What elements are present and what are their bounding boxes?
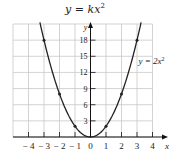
y-tick-label: 18: [80, 36, 88, 45]
x-tick-label: 3: [135, 141, 140, 151]
y-tick-label: 15: [80, 52, 88, 61]
parabola-chart: − 4− 3− 2− 101234x181512963yy = 2x2: [0, 0, 170, 157]
data-point: [74, 125, 77, 128]
data-point: [43, 39, 46, 42]
x-tick-label: − 3: [38, 141, 50, 151]
y-axis-label: y: [83, 23, 88, 32]
x-tick-label: − 2: [54, 141, 66, 151]
x-tick-label: 1: [104, 141, 109, 151]
data-point: [58, 92, 61, 95]
y-tick-label: 3: [84, 117, 88, 126]
x-tick-label: 2: [119, 141, 124, 151]
x-axis-arrow-icon: [162, 135, 168, 140]
data-point: [136, 39, 139, 42]
curve-label: y = 2x2: [138, 56, 165, 66]
y-tick-label: 9: [84, 85, 88, 94]
x-tick-label: − 4: [23, 141, 35, 151]
data-point: [105, 125, 108, 128]
x-axis-label: x: [164, 141, 169, 151]
y-tick-label: 6: [84, 101, 88, 110]
x-tick-label: 4: [150, 141, 155, 151]
x-tick-label: − 1: [69, 141, 81, 151]
x-tick-label: 0: [88, 141, 93, 151]
y-axis-arrow-icon: [88, 22, 93, 28]
data-point: [120, 92, 123, 95]
y-tick-label: 12: [80, 68, 88, 77]
